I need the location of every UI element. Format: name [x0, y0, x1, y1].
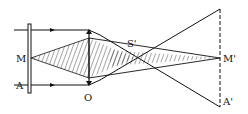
plate — [28, 24, 31, 93]
label-A-prime: A' — [222, 96, 233, 107]
optics-diagram: M A O S' M' A' — [0, 0, 248, 114]
arrow-bottom-icon — [50, 83, 55, 87]
label-S-prime: S' — [127, 38, 137, 49]
arrow-top-icon — [50, 28, 55, 32]
label-M: M — [16, 53, 26, 64]
label-A: A — [15, 80, 24, 91]
ray-top-outgoing — [100, 35, 220, 107]
hatched-cone-right-fill — [110, 50, 220, 66]
ray-bottom-outgoing — [100, 9, 220, 80]
hatched-cone-left — [31, 38, 89, 78]
label-O: O — [84, 92, 92, 103]
label-M-prime: M' — [223, 53, 236, 64]
